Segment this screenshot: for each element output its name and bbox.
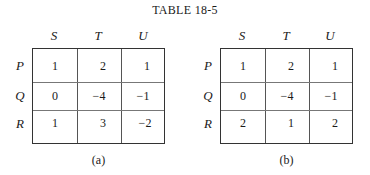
table-caption-b: (b) <box>220 153 353 168</box>
table-title: TABLE 18-5 <box>0 3 370 18</box>
row-header-q: Q <box>10 88 30 104</box>
column-header-s: S <box>32 28 76 44</box>
row-divider <box>33 110 164 111</box>
cell-q-u: −1 <box>309 89 353 104</box>
row-header-q: Q <box>198 88 218 104</box>
cell-r-s: 2 <box>221 116 265 131</box>
cell-r-t: 1 <box>269 116 313 131</box>
cell-p-t: 2 <box>81 59 125 74</box>
row-divider <box>221 110 352 111</box>
row-header-p: P <box>198 58 218 74</box>
cell-r-u: −2 <box>123 116 167 131</box>
table-grid: 1 2 1 0 −4 −1 2 1 2 <box>220 48 353 144</box>
row-header-r: R <box>198 116 218 132</box>
table-caption-a: (a) <box>32 153 165 168</box>
cell-r-u: 2 <box>313 116 357 131</box>
cell-p-s: 1 <box>33 59 77 74</box>
column-header-u: U <box>121 28 165 44</box>
column-header-t: T <box>76 28 120 44</box>
cell-p-s: 1 <box>221 59 265 74</box>
row-divider <box>33 82 164 83</box>
row-header-p: P <box>10 58 30 74</box>
table-grid: 1 2 1 0 −4 −1 1 3 −2 <box>32 48 165 144</box>
cell-p-u: 1 <box>313 59 357 74</box>
column-header-u: U <box>308 28 352 44</box>
cell-r-s: 1 <box>33 116 77 131</box>
cell-q-t: −4 <box>77 89 121 104</box>
row-header-r: R <box>10 116 30 132</box>
cell-q-s: 0 <box>33 89 77 104</box>
column-header-s: S <box>220 28 264 44</box>
cell-q-u: −1 <box>121 89 165 104</box>
column-header-t: T <box>264 28 308 44</box>
cell-r-t: 3 <box>81 116 125 131</box>
cell-q-s: 0 <box>221 89 265 104</box>
cell-q-t: −4 <box>265 89 309 104</box>
cell-p-u: 1 <box>125 59 169 74</box>
row-divider <box>221 82 352 83</box>
cell-p-t: 2 <box>269 59 313 74</box>
